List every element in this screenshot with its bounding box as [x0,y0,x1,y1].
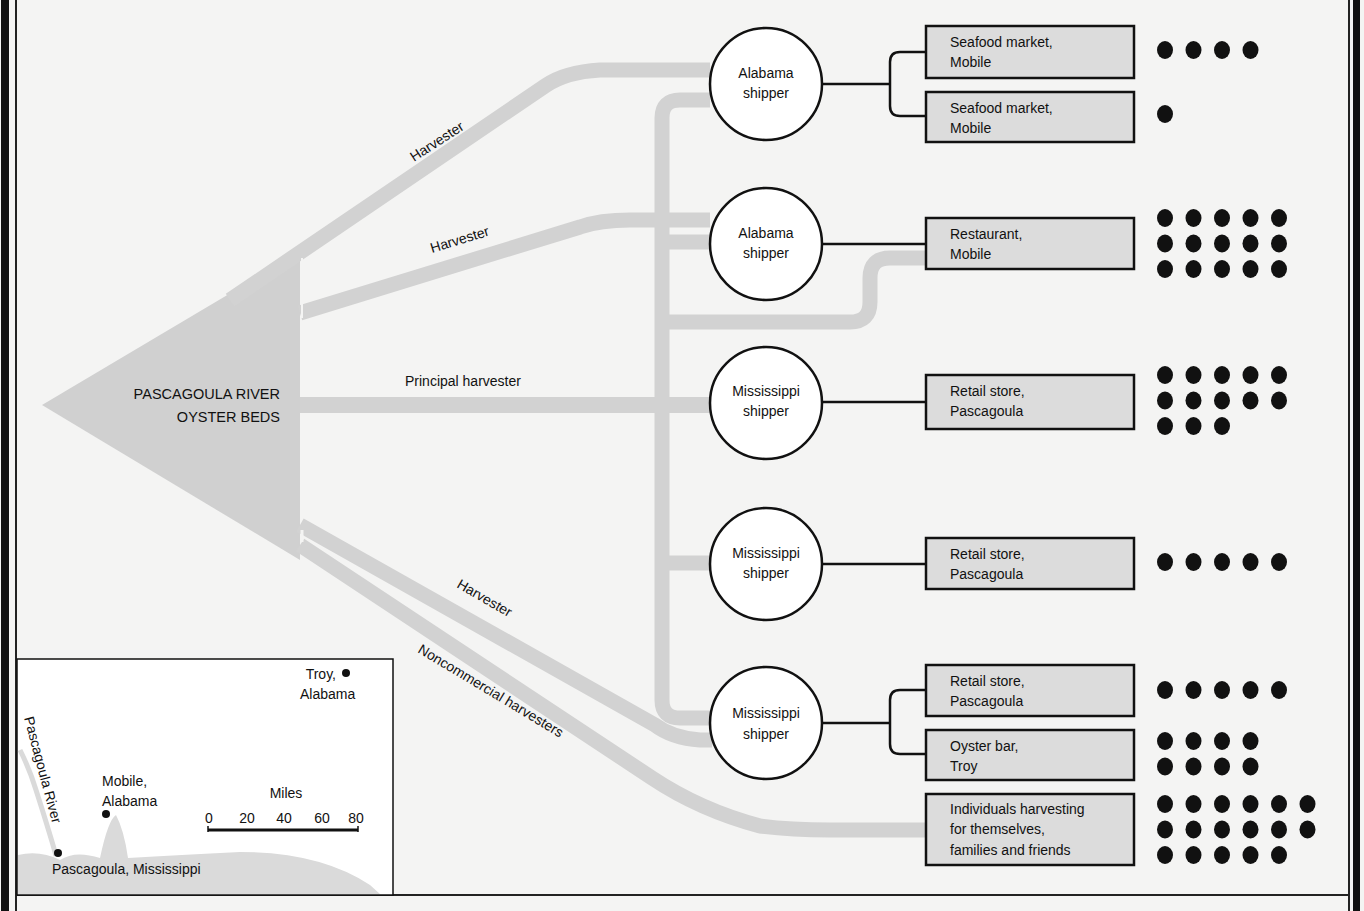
svg-text:0: 0 [205,810,213,826]
map-troy-label-1: Troy, [306,666,336,682]
count-dot [1271,681,1287,699]
source-label-line1: PASCAGOULA RIVER [134,386,280,402]
count-dot [1214,758,1230,776]
svg-text:Mobile: Mobile [950,54,991,70]
svg-text:Mississippi: Mississippi [732,705,800,721]
count-dot [1157,209,1173,227]
count-dot [1157,821,1173,839]
destination-individuals: Individuals harvesting for themselves, f… [926,794,1134,865]
map-mobile-label-1: Mobile, [102,773,147,789]
count-dot [1214,795,1230,813]
count-dot [1186,260,1202,278]
frame-right-thin [1348,0,1350,911]
destination-seafood-market-1: Seafood market, Mobile [926,26,1134,78]
count-dot [1186,41,1202,59]
count-dot [1186,821,1202,839]
destination-retail-store-3: Retail store, Pascagoula [926,665,1134,716]
count-dot [1157,681,1173,699]
count-dot [1186,681,1202,699]
count-dot [1186,846,1202,864]
map-troy-dot [342,669,350,677]
svg-text:40: 40 [276,810,292,826]
count-dot [1157,846,1173,864]
svg-text:Individuals harvesting: Individuals harvesting [950,801,1085,817]
count-dot [1214,235,1230,253]
count-dot [1186,235,1202,253]
svg-text:families and friends: families and friends [950,842,1071,858]
count-dot [1300,795,1316,813]
svg-text:shipper: shipper [743,726,789,742]
count-dot [1243,209,1259,227]
count-dot [1214,260,1230,278]
count-dot [1157,366,1173,384]
count-dot [1271,392,1287,410]
svg-text:60: 60 [314,810,330,826]
svg-text:Retail store,: Retail store, [950,546,1025,562]
svg-text:Mobile: Mobile [950,246,991,262]
shipper-node-mississippi-3: Mississippi shipper [710,667,822,779]
shipper-node-alabama-1: Alabama shipper [710,28,822,140]
svg-text:Pascagoula: Pascagoula [950,403,1023,419]
svg-text:shipper: shipper [743,85,789,101]
svg-text:Retail store,: Retail store, [950,673,1025,689]
count-dot [1157,260,1173,278]
map-troy-label-2: Alabama [300,686,355,702]
count-dot [1243,235,1259,253]
count-dot [1243,732,1259,750]
svg-text:Oyster bar,: Oyster bar, [950,738,1018,754]
svg-text:Mobile: Mobile [950,120,991,136]
count-dot [1243,260,1259,278]
map-pascagoula-dot [54,849,62,857]
count-dot [1157,105,1173,123]
count-dot [1186,758,1202,776]
count-dot [1271,366,1287,384]
count-dot [1243,41,1259,59]
svg-text:20: 20 [239,810,255,826]
frame-left-thick [1,0,9,911]
count-dot [1271,553,1287,571]
count-dot [1214,732,1230,750]
count-dot [1214,553,1230,571]
count-dot [1186,795,1202,813]
count-dot [1243,846,1259,864]
destination-retail-store-2: Retail store, Pascagoula [926,538,1134,589]
svg-text:Retail store,: Retail store, [950,383,1025,399]
count-dot [1157,553,1173,571]
count-dot [1214,821,1230,839]
count-dot [1271,795,1287,813]
map-pascagoula-label: Pascagoula, Mississippi [52,861,201,877]
count-dot [1157,235,1173,253]
flow-label-principal: Principal harvester [405,373,521,389]
count-dot [1271,821,1287,839]
svg-text:Alabama: Alabama [738,65,793,81]
svg-text:Pascagoula: Pascagoula [950,566,1023,582]
count-dot [1214,417,1230,435]
count-dot [1214,681,1230,699]
destination-restaurant: Restaurant, Mobile [926,218,1134,269]
count-dot [1186,417,1202,435]
count-dot [1214,846,1230,864]
count-dot [1186,732,1202,750]
count-dot [1271,235,1287,253]
map-scale-title: Miles [270,785,303,801]
shipper-node-alabama-2: Alabama shipper [710,188,822,300]
count-dot [1186,366,1202,384]
count-dot [1271,260,1287,278]
count-dot [1186,209,1202,227]
count-dot [1243,795,1259,813]
svg-text:Alabama: Alabama [738,225,793,241]
svg-text:for themselves,: for themselves, [950,821,1045,837]
count-dot [1214,366,1230,384]
count-dot [1214,209,1230,227]
svg-text:Seafood market,: Seafood market, [950,100,1053,116]
dot-group-1 [1157,105,1173,123]
svg-text:Troy: Troy [950,758,977,774]
count-dot [1243,821,1259,839]
shipper-node-mississippi-2: Mississippi shipper [710,508,822,620]
oyster-distribution-diagram: PASCAGOULA RIVER OYSTER BEDS Harvester H… [0,0,1364,911]
map-mobile-dot [102,810,110,818]
count-dot [1243,758,1259,776]
count-dot [1243,553,1259,571]
count-dot [1157,392,1173,410]
count-dot [1157,417,1173,435]
